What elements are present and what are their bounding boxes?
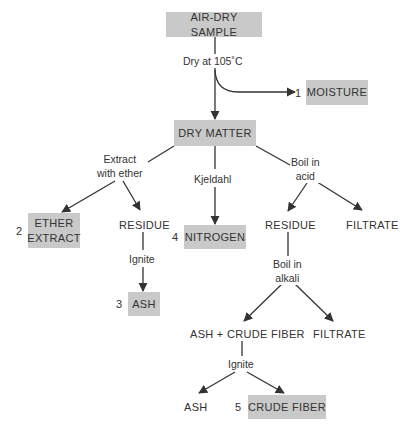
edge-label-extract: Extract with ether [96, 152, 144, 180]
edge-label-boil-acid: Boil in acid [290, 155, 321, 183]
arrow-to-ether-extract [62, 181, 115, 212]
node-label: ASH [132, 297, 156, 312]
arrow-to-ash-crude-fiber [244, 283, 283, 321]
arrow-to-filtrate-acid [314, 180, 362, 210]
edge-label-dry: Dry at 105˚C [182, 54, 244, 68]
node-label-line2: EXTRACT [27, 231, 80, 246]
node-nitrogen: NITROGEN [184, 225, 246, 249]
node-filtrate-alkali: FILTRATE [313, 327, 366, 341]
edge-label-kjeldahl: Kjeldahl [193, 172, 232, 186]
edge-label-line1: Boil in [273, 257, 302, 271]
node-label-line1: ETHER [35, 216, 74, 231]
step-number-1: 1 [295, 86, 301, 100]
node-label: AIR-DRY SAMPLE [166, 10, 262, 40]
node-filtrate-acid: FILTRATE [346, 218, 399, 232]
edge-label-line2: with ether [97, 166, 143, 180]
arrow-to-residue-ether [123, 181, 140, 210]
edge-label-line2: alkali [273, 271, 302, 285]
node-label: NITROGEN [185, 230, 245, 245]
step-number-3: 3 [116, 297, 122, 311]
node-label: MOISTURE [307, 85, 367, 100]
step-number-2: 2 [16, 224, 22, 238]
node-label: CRUDE FIBER [248, 400, 326, 415]
edge-label-line1: Extract [97, 152, 143, 166]
node-ash-final: ASH [184, 400, 208, 414]
edge-label-line2: acid [291, 169, 320, 183]
step-number-5: 5 [235, 400, 241, 414]
node-residue-ether: RESIDUE [119, 218, 170, 232]
node-ash: ASH [128, 292, 160, 316]
edge-label-ignite-1: Ignite [128, 252, 156, 266]
step-number-4: 4 [172, 230, 178, 244]
node-air-dry-sample: AIR-DRY SAMPLE [166, 12, 262, 37]
edge-label-boil-alkali: Boil in alkali [272, 257, 303, 285]
node-residue-acid: RESIDUE [265, 218, 316, 232]
node-label: DRY MATTER [178, 126, 251, 141]
node-moisture: MOISTURE [306, 80, 368, 105]
arrow-to-filtrate-alkali [294, 283, 333, 321]
node-crude-fiber: CRUDE FIBER [248, 395, 326, 419]
node-dry-matter: DRY MATTER [174, 120, 256, 146]
node-ash-crude-fiber: ASH + CRUDE FIBER [190, 327, 305, 341]
node-ether-extract: ETHER EXTRACT [28, 213, 80, 248]
arrow-to-ash-final [199, 372, 235, 393]
arrow-to-residue-acid [288, 183, 307, 211]
edge-label-ignite-2: Ignite [227, 357, 255, 371]
arrow-to-crude-fiber [247, 372, 284, 393]
arrow-to-moisture [215, 70, 295, 92]
edge-label-line1: Boil in [291, 155, 320, 169]
